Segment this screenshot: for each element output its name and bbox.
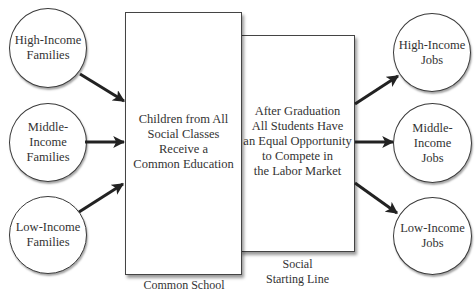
arrow-high-income-families — [80, 74, 124, 101]
arrow-low-income-families — [79, 184, 123, 212]
arrow-low-income-jobs — [355, 183, 397, 213]
arrow-layer — [0, 0, 475, 296]
arrow-high-income-jobs — [355, 76, 398, 104]
